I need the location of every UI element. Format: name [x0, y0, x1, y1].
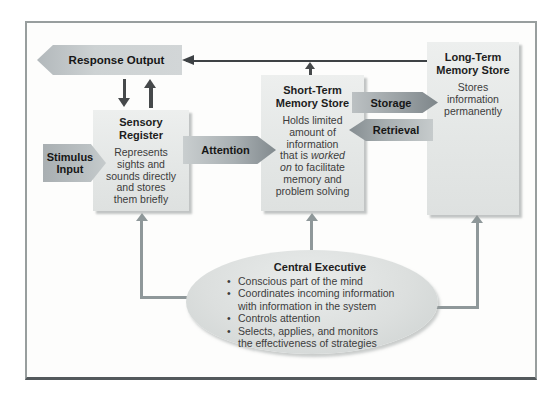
connector-left-vertical	[140, 220, 143, 298]
long-term-memory-body: Stores information permanently	[427, 82, 519, 117]
long-term-memory-title: Long-Term Memory Store	[427, 51, 519, 76]
central-executive-title: Central Executive	[226, 261, 414, 273]
sensory-register-box: Sensory Register Represents sights and s…	[93, 110, 189, 211]
short-term-memory-box: Short-Term Memory Store Holds limited am…	[261, 75, 364, 211]
retrieval-label: Retrieval	[373, 124, 419, 136]
central-executive-ellipse: Central Executive Conscious part of the …	[186, 250, 438, 354]
memory-model-diagram: Sensory Register Represents sights and s…	[0, 0, 560, 394]
central-executive-bullet: Controls attention	[226, 312, 414, 324]
sensory-register-title: Sensory Register	[93, 116, 189, 141]
connector-right-horizontal	[436, 306, 478, 309]
retrieval-arrow: Retrieval	[349, 119, 433, 141]
short-term-memory-title: Short-Term Memory Store	[261, 84, 364, 109]
short-term-memory-body: Holds limited amount of information that…	[261, 115, 364, 198]
connector-left-horizontal	[140, 296, 192, 299]
central-executive-bullet: Selects, applies, and monitors the effec…	[226, 325, 414, 350]
stm-to-line-arrowhead-icon	[305, 62, 315, 69]
connector-middle-arrowhead-icon	[306, 213, 318, 221]
central-executive-bullet: Conscious part of the mind	[226, 275, 414, 287]
stimulus-input-label: Stimulus Input	[47, 151, 93, 175]
attention-arrow: Attention	[183, 136, 276, 164]
down-arrowhead-icon	[118, 98, 130, 107]
response-output-label: Response Output	[69, 54, 165, 66]
storage-arrow: Storage	[352, 92, 438, 113]
sensory-register-body: Represents sights and sounds directly an…	[93, 147, 189, 206]
connector-middle-vertical	[310, 220, 313, 253]
central-executive-bullet: Coordinates incoming information with in…	[226, 287, 414, 312]
connector-right-arrowhead-icon	[471, 215, 483, 223]
attention-label: Attention	[201, 144, 249, 156]
sensory-to-response-stem	[149, 88, 153, 108]
connector-left-arrowhead-icon	[136, 213, 148, 221]
storage-label: Storage	[371, 97, 412, 109]
long-term-memory-box: Long-Term Memory Store Stores informatio…	[427, 42, 519, 215]
response-to-sensory-stem	[123, 79, 127, 99]
response-output-arrowhead-icon	[182, 55, 194, 65]
central-executive-bullet-list: Conscious part of the mind Coordinates i…	[226, 275, 414, 349]
response-output-arrow: Response Output	[37, 45, 182, 75]
connector-right-vertical	[476, 222, 479, 309]
